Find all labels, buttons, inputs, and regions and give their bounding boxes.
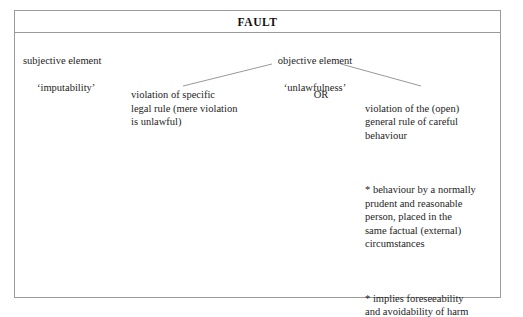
branch-general-rule-bullet-1: * behaviour by a normally prudent and re… xyxy=(365,183,505,251)
page-title: FAULT xyxy=(237,16,277,28)
fault-diagram: FAULT subjective element ‘imputability’ … xyxy=(0,0,523,317)
branch-general-rule: violation of the (open) general rule of … xyxy=(365,88,505,317)
subjective-element-block: subjective element ‘imputability’ xyxy=(23,40,101,108)
branch-general-rule-heading: violation of the (open) general rule of … xyxy=(365,102,505,143)
diagram-header: FAULT xyxy=(15,11,500,33)
objective-element-label: objective element xyxy=(255,54,375,68)
branch-general-rule-bullet-2: * implies foreseeability and avoidabilit… xyxy=(365,292,505,317)
subjective-element-term: ‘imputability’ xyxy=(23,81,101,95)
diagram-body: subjective element ‘imputability’ object… xyxy=(15,33,500,298)
subjective-element-label: subjective element xyxy=(23,54,101,68)
branch-or-label: OR xyxy=(301,88,341,102)
fault-outer-box: FAULT subjective element ‘imputability’ … xyxy=(14,10,501,298)
branch-specific-rule: violation of specific legal rule (mere v… xyxy=(131,88,281,129)
